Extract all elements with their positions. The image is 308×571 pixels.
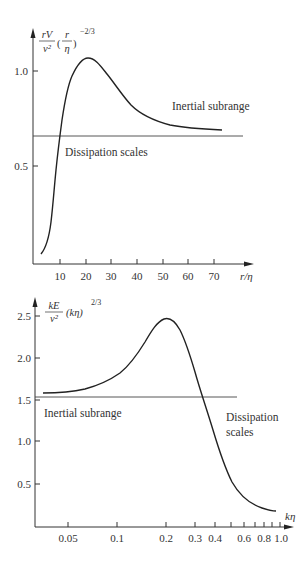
bottom-x-tick-0.4: 0.4 (208, 532, 222, 544)
bottom-annotation-inertial: Inertial subrange (44, 407, 122, 420)
top-y-axis-label: rV ν² ( r η ) −2/3 (39, 27, 95, 54)
top-x-tick-20: 20 (81, 270, 93, 282)
bottom-y-tick-1.0: 1.0 (17, 435, 31, 447)
top-x-axis-label: r/η (240, 270, 253, 282)
top-x-tick-40: 40 (132, 270, 144, 282)
bottom-y-axis-label: kE ν² (kη) 2/3 (45, 298, 101, 324)
top-chart: 1.0 0.5 10 20 30 40 50 60 70 r/η rV ν² (14, 27, 254, 282)
bottom-x-tick-0.3: 0.3 (188, 532, 202, 544)
svg-text:2/3: 2/3 (91, 298, 101, 307)
bottom-annotation-dissipation-line2: scales (226, 426, 254, 438)
top-annotation-dissipation: Dissipation scales (65, 146, 148, 159)
bottom-y-tick-2.5: 2.5 (17, 310, 31, 322)
bottom-x-tick-1.0: 1.0 (274, 532, 288, 544)
svg-text:−2/3: −2/3 (80, 27, 95, 36)
bottom-x-tick-0.2: 0.2 (159, 532, 173, 544)
bottom-x-tick-0.8: 0.8 (257, 532, 271, 544)
top-x-tick-50: 50 (158, 270, 170, 282)
svg-text:η: η (64, 43, 69, 54)
bottom-annotation-dissipation-line1: Dissipation (226, 411, 279, 424)
top-annotation-inertial: Inertial subrange (172, 100, 250, 113)
top-x-axis-arrow-icon (244, 262, 254, 267)
top-x-tick-10: 10 (55, 270, 67, 282)
svg-text:): ) (73, 38, 77, 50)
bottom-x-tick-0.1: 0.1 (110, 532, 124, 544)
top-x-tick-60: 60 (183, 270, 195, 282)
top-y-tick-0.5: 0.5 (14, 160, 28, 172)
bottom-x-tick-0.05: 0.05 (58, 532, 78, 544)
top-y-tick-1.0: 1.0 (14, 65, 28, 77)
bottom-y-tick-2.0: 2.0 (17, 352, 31, 364)
svg-text:(: ( (57, 38, 61, 50)
top-y-axis-arrow-icon (31, 28, 36, 38)
top-x-tick-30: 30 (106, 270, 118, 282)
top-x-tick-70: 70 (209, 270, 221, 282)
bottom-x-axis-arrow-icon (284, 525, 294, 530)
bottom-y-tick-0.5: 0.5 (17, 478, 31, 490)
bottom-x-axis-label: kη (285, 510, 295, 522)
bottom-x-tick-0.6: 0.6 (237, 532, 251, 544)
bottom-y-axis-arrow-icon (33, 297, 38, 307)
figure: 1.0 0.5 10 20 30 40 50 60 70 r/η rV ν² (0, 0, 308, 571)
bottom-chart: 2.5 2.0 1.5 1.0 0.5 0.05 0.1 0.2 0.3 0.4 (17, 297, 295, 544)
svg-text:rV: rV (42, 29, 54, 40)
svg-text:kE: kE (48, 300, 60, 311)
bottom-y-tick-1.5: 1.5 (17, 394, 31, 406)
svg-text:(kη): (kη) (66, 307, 83, 319)
svg-text:ν²: ν² (43, 43, 52, 54)
svg-text:ν²: ν² (50, 313, 59, 324)
svg-text:r: r (65, 29, 70, 40)
